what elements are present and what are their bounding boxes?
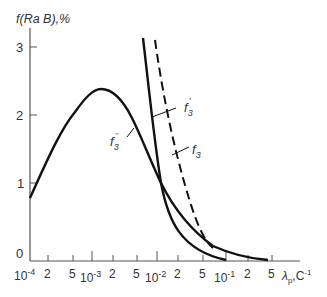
chart: 3 2 1 0 f(Ra B),% 10-4 2 5 10-3 2 5 10-2…: [0, 0, 327, 297]
y-tick-0: 0: [16, 246, 23, 261]
label-f3: f3: [192, 142, 201, 160]
curve-f3-double-prime: [30, 89, 268, 260]
leader-f3: [172, 147, 189, 155]
y-ticks: [30, 47, 37, 183]
x-axis-label: λp,C-1: [281, 268, 312, 285]
leader-f3-double-prime: [127, 128, 134, 137]
label-f3-double-prime: f3'': [110, 131, 119, 152]
svg-text:5: 5: [199, 267, 206, 281]
svg-text:5: 5: [69, 267, 76, 281]
x-tick-labels: 10-4 2 5 10-3 2 5 10-2 2 5 10-1 2 5: [14, 267, 275, 285]
svg-text:2: 2: [244, 267, 251, 281]
curve-f3-dashed: [155, 40, 213, 248]
y-axis-label: f(Ra B),%: [16, 12, 70, 26]
leader-f3-prime: [152, 108, 176, 117]
svg-text:2: 2: [174, 267, 181, 281]
svg-text:2: 2: [109, 267, 116, 281]
svg-text:10-2: 10-2: [145, 269, 166, 285]
svg-text:5: 5: [268, 267, 275, 281]
y-tick-3: 3: [16, 40, 23, 55]
svg-text:2: 2: [44, 267, 51, 281]
svg-text:10-1: 10-1: [214, 269, 235, 285]
y-tick-1: 1: [17, 176, 24, 191]
svg-text:5: 5: [133, 267, 140, 281]
y-tick-2: 2: [16, 108, 23, 123]
svg-text:10-4: 10-4: [14, 267, 35, 283]
svg-text:10-3: 10-3: [80, 269, 101, 285]
label-f3-prime: f3': [184, 96, 193, 118]
